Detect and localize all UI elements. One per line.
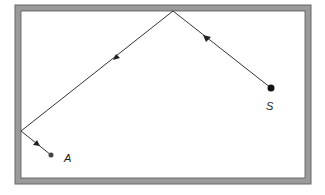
target-point [49,153,54,158]
source-point [268,85,275,92]
reflection-diagram: S A [0,0,325,195]
room-walls [15,5,311,184]
source-label: S [266,100,274,112]
target-label: A [63,152,71,164]
